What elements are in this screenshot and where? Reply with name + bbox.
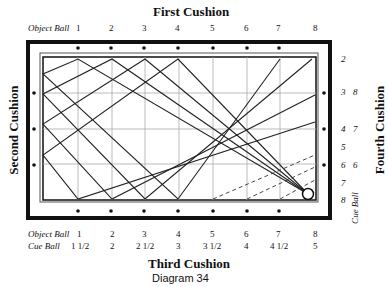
billiard-table-diagram [0, 0, 388, 287]
dashed-paths [213, 155, 315, 199]
cue-ball [303, 189, 314, 200]
grid-lines [43, 57, 316, 200]
rail-inner-line [43, 57, 316, 200]
